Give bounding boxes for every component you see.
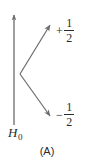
spin-down-value-label: − 1 2 (56, 101, 74, 128)
spin-down-fraction: 1 2 (64, 101, 74, 128)
energy-level-splitting-figure: H0 + 1 2 − 1 2 (A) (0, 0, 94, 165)
field-subscript: 0 (18, 132, 23, 142)
spin-down-sign: − (56, 109, 63, 121)
spin-up-sign: + (56, 25, 63, 37)
spin-down-branch-arrow (20, 74, 50, 116)
spin-up-denominator: 2 (65, 31, 73, 44)
field-symbol: H (8, 125, 17, 140)
spin-up-branch-arrow (20, 25, 50, 74)
spin-down-denominator: 2 (65, 115, 73, 128)
field-strength-label: H0 (8, 126, 22, 142)
spin-up-value-label: + 1 2 (56, 17, 74, 44)
spin-down-numerator: 1 (65, 101, 73, 114)
figure-caption: (A) (0, 146, 94, 157)
spin-up-fraction: 1 2 (64, 17, 74, 44)
spin-up-numerator: 1 (65, 17, 73, 30)
